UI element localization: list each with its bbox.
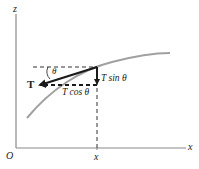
vertical-component-label: T sin θ — [101, 74, 127, 84]
string-curve — [27, 53, 170, 118]
tension-vector — [40, 67, 97, 85]
angle-arc — [47, 67, 50, 79]
string-tension-diagram: z O x x T θ T sin θ T cos θ — [0, 0, 199, 169]
x-tick-label: x — [94, 152, 98, 162]
origin-label: O — [6, 151, 13, 161]
tension-label: T — [27, 79, 34, 90]
angle-label: θ — [52, 67, 56, 76]
z-axis-label: z — [13, 4, 17, 14]
horizontal-component-label: T cos θ — [62, 88, 89, 98]
x-axis-label: x — [188, 142, 192, 152]
